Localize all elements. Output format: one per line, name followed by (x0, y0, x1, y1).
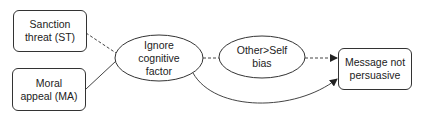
node-moral-appeal-line1: Moral (20, 77, 77, 90)
edge-ma-to-ignore (86, 61, 116, 89)
node-sanction-threat-line1: Sanction (25, 18, 75, 31)
edge-st-to-ignore (86, 33, 116, 53)
node-moral-appeal: Moral appeal (MA) (12, 68, 86, 111)
node-other-self-bias: Other>Self bias (219, 36, 305, 78)
node-sanction-threat-line2: threat (ST) (25, 31, 75, 44)
node-bias-line1: Other>Self (237, 44, 288, 57)
node-message-line1: Message not (345, 56, 405, 69)
node-ignore-line1: Ignore (138, 39, 179, 52)
node-moral-appeal-line2: appeal (MA) (20, 90, 77, 103)
node-ignore-cognitive-factor: Ignore cognitive factor (115, 35, 203, 81)
node-sanction-threat: Sanction threat (ST) (13, 10, 87, 52)
node-message-line2: persuasive (345, 69, 405, 82)
node-ignore-line2: cognitive (138, 52, 179, 65)
node-message-not-persuasive: Message not persuasive (338, 48, 412, 90)
node-ignore-line3: factor (138, 65, 179, 78)
node-bias-line2: bias (237, 57, 288, 70)
